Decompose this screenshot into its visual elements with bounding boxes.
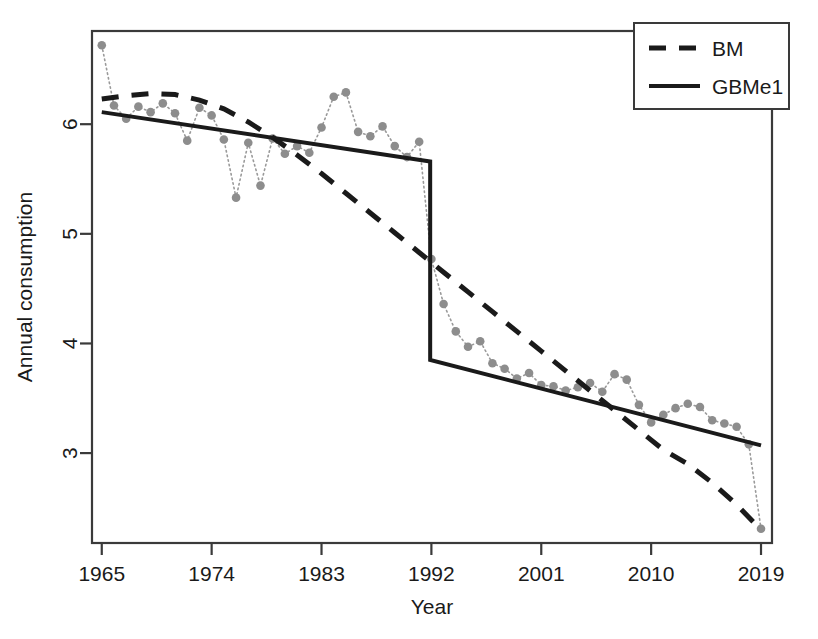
observed-data-point bbox=[476, 337, 485, 346]
observed-data-point bbox=[159, 99, 168, 108]
observed-data-point bbox=[757, 524, 766, 533]
x-tick-label: 1992 bbox=[408, 562, 455, 585]
observed-data-point bbox=[732, 422, 741, 431]
x-axis-tick-labels: 1965197419831992200120102019 bbox=[78, 562, 784, 585]
observed-data-point bbox=[720, 419, 729, 428]
y-axis-tick-labels: 3456 bbox=[58, 118, 81, 459]
observed-data-point bbox=[146, 108, 155, 117]
observed-data-point bbox=[342, 88, 351, 97]
observed-data-point bbox=[500, 364, 509, 373]
x-tick-label: 2019 bbox=[738, 562, 785, 585]
observed-data-point bbox=[452, 327, 461, 336]
observed-data-point bbox=[464, 342, 473, 351]
chart-container: 1965197419831992200120102019 3456 Year A… bbox=[0, 0, 818, 639]
observed-data-point bbox=[488, 359, 497, 368]
observed-data-point bbox=[110, 101, 119, 110]
y-axis-title: Annual consumption bbox=[13, 192, 36, 382]
observed-data-point bbox=[598, 387, 607, 396]
observed-data-point bbox=[97, 41, 106, 50]
observed-data-point bbox=[671, 404, 680, 413]
x-tick-label: 2010 bbox=[628, 562, 675, 585]
observed-data-point bbox=[232, 193, 241, 202]
chart-svg: 1965197419831992200120102019 3456 Year A… bbox=[0, 0, 818, 639]
observed-data-point bbox=[134, 102, 143, 111]
observed-data-point bbox=[195, 103, 204, 112]
x-axis-tick-marks bbox=[102, 543, 761, 555]
observed-data-point bbox=[635, 401, 644, 410]
x-tick-label: 1983 bbox=[298, 562, 345, 585]
x-tick-label: 1974 bbox=[188, 562, 235, 585]
observed-data-point bbox=[256, 181, 265, 190]
y-tick-label: 3 bbox=[58, 447, 81, 459]
observed-data-point bbox=[244, 139, 253, 148]
observed-data-point bbox=[183, 136, 192, 145]
observed-data-point bbox=[622, 375, 631, 384]
series-gbme1-solid-step-curve bbox=[102, 112, 761, 445]
observed-data-point bbox=[439, 300, 448, 309]
observed-data-point bbox=[317, 123, 326, 132]
observed-data-point bbox=[305, 148, 314, 157]
x-tick-label: 1965 bbox=[78, 562, 125, 585]
observed-data-point bbox=[281, 149, 290, 158]
observed-data-point bbox=[171, 109, 180, 118]
legend-label-gbme1: GBMe1 bbox=[712, 75, 783, 98]
observed-data-point bbox=[354, 128, 363, 137]
observed-data-point bbox=[696, 403, 705, 412]
legend-label-bm: BM bbox=[712, 37, 744, 60]
y-tick-label: 5 bbox=[58, 228, 81, 240]
observed-data-point bbox=[220, 135, 229, 144]
observed-data-point bbox=[366, 132, 375, 141]
observed-data-point bbox=[708, 416, 717, 425]
x-tick-label: 2001 bbox=[518, 562, 565, 585]
observed-data-point bbox=[207, 111, 216, 120]
observed-data-point bbox=[525, 369, 534, 378]
observed-data-point bbox=[610, 370, 619, 379]
observed-data-point bbox=[329, 92, 338, 101]
observed-data-point bbox=[390, 142, 399, 151]
observed-data-point bbox=[378, 122, 387, 131]
y-tick-label: 6 bbox=[58, 118, 81, 130]
observed-data-point bbox=[683, 399, 692, 408]
y-tick-label: 4 bbox=[58, 337, 81, 349]
x-axis-title: Year bbox=[411, 595, 453, 618]
y-axis-tick-marks bbox=[80, 124, 92, 453]
observed-data-point bbox=[415, 137, 424, 146]
legend: BM GBMe1 bbox=[634, 23, 789, 109]
